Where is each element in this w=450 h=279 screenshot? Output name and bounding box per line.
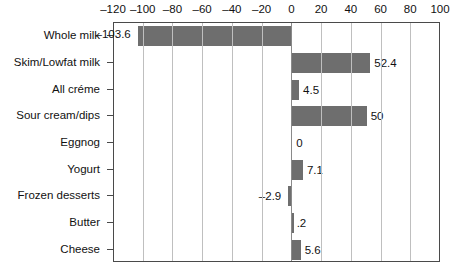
x-tick-label: 100 <box>430 3 449 15</box>
x-tick-label: –40 <box>222 3 241 15</box>
zero-line <box>291 23 292 261</box>
y-axis-category-labels: Whole milkSkim/Lowfat milkAll crémeSour … <box>0 22 113 262</box>
y-axis-label: Eggnog <box>60 135 100 149</box>
bar <box>138 26 292 46</box>
y-axis-label: Yogurt <box>67 162 100 176</box>
bar-row: .2 <box>114 210 439 236</box>
bar-value-label: 4.5 <box>303 82 319 98</box>
x-tick-label: –120 <box>100 3 126 15</box>
x-tick-label: –100 <box>130 3 156 15</box>
bar-value-label: 5.6 <box>305 242 321 258</box>
bar <box>292 160 303 180</box>
gridline <box>321 23 322 261</box>
bar-row: 0 <box>114 130 439 156</box>
bar <box>292 53 370 73</box>
x-tick-label: 60 <box>374 3 387 15</box>
bar-row: 52.4 <box>114 50 439 76</box>
bar <box>292 106 366 126</box>
gridline <box>410 23 411 261</box>
gridline <box>262 23 263 261</box>
y-axis-label: Skim/Lowfat milk <box>14 55 100 69</box>
bar <box>292 80 299 100</box>
y-axis-label: Cheese <box>60 242 100 256</box>
bar-row: –2.9 <box>114 183 439 209</box>
y-axis-label: Butter <box>69 215 100 229</box>
x-tick-label: 20 <box>315 3 328 15</box>
x-axis-tick-labels: –120–100–80–60–40–20020406080100 <box>0 0 450 22</box>
y-axis-label: Sour cream/dips <box>16 108 100 122</box>
bar-value-label: .2 <box>297 215 307 231</box>
x-tick-label: 40 <box>344 3 357 15</box>
plot-area: 52.44.55007.1–2.9.25.6 <box>113 22 440 262</box>
bar-value-label: 52.4 <box>374 55 396 71</box>
bar-value-label: 0 <box>296 135 302 151</box>
bar-row: 4.5 <box>114 77 439 103</box>
y-axis-label: All créme <box>52 82 100 96</box>
y-axis-label: Whole milk <box>44 28 100 42</box>
y-axis-label: Frozen desserts <box>18 188 100 202</box>
x-tick-label: –20 <box>252 3 271 15</box>
bar <box>292 240 300 260</box>
x-tick-label: –60 <box>193 3 212 15</box>
gridline <box>202 23 203 261</box>
gridline <box>232 23 233 261</box>
bar <box>292 213 294 233</box>
gridline <box>143 23 144 261</box>
bar-value-label: –103.6 <box>96 27 131 41</box>
bar-row: 50 <box>114 103 439 129</box>
x-tick-label: –80 <box>163 3 182 15</box>
bar-row: 5.6 <box>114 237 439 263</box>
gridline <box>381 23 382 261</box>
x-tick-label: 0 <box>288 3 294 15</box>
gridline <box>172 23 173 261</box>
bar-value-label: 50 <box>371 108 384 124</box>
bar-chart: –120–100–80–60–40–20020406080100 Whole m… <box>0 0 450 279</box>
bars-layer: 52.44.55007.1–2.9.25.6 <box>114 23 439 261</box>
bar-row <box>114 23 439 49</box>
x-tick-label: 80 <box>404 3 417 15</box>
gridline <box>351 23 352 261</box>
bar-row: 7.1 <box>114 157 439 183</box>
